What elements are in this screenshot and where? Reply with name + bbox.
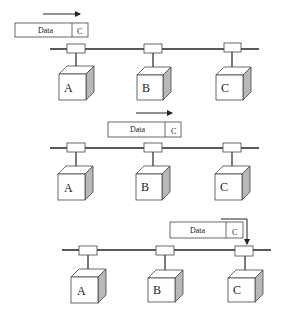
node-label: B [153, 283, 161, 297]
node-label: A [77, 284, 86, 298]
tap-connector [224, 43, 241, 52]
data-packet: Data C [15, 23, 88, 37]
packet-dest-label: C [171, 127, 176, 136]
node-a: A [59, 44, 94, 100]
tap-connector [144, 44, 162, 53]
node-c: C [216, 43, 251, 100]
tap-connector [79, 246, 97, 255]
stage-3: Data C A B C [62, 219, 271, 303]
tap-connector [235, 246, 253, 256]
node-label: B [141, 180, 149, 194]
node-label: A [64, 81, 73, 95]
data-packet: Data C [108, 122, 181, 137]
packet-data-label: Data [38, 26, 54, 35]
node-b: B [136, 143, 170, 200]
tap-connector [67, 143, 85, 152]
node-label: C [221, 81, 229, 95]
bus-network-diagram: Data C A B C [0, 0, 284, 321]
node-label: B [142, 81, 150, 95]
node-c: C [228, 246, 263, 302]
node-a: A [71, 246, 106, 303]
tap-connector [67, 44, 85, 53]
stage-2: Data C A B C [50, 113, 259, 200]
tap-connector [156, 246, 174, 255]
tap-connector [223, 143, 241, 152]
node-label: C [220, 180, 228, 194]
packet-dest-label: C [77, 27, 82, 36]
tap-connector [144, 143, 162, 152]
node-c: C [215, 143, 250, 200]
node-b: B [148, 246, 183, 302]
packet-dest-label: C [232, 228, 237, 237]
node-b: B [137, 44, 171, 100]
node-label: C [233, 283, 241, 297]
stage-1: Data C A B C [15, 14, 259, 100]
node-label: A [64, 181, 73, 195]
packet-data-label: Data [190, 226, 206, 235]
data-packet: Data C [170, 222, 243, 238]
node-a: A [58, 143, 93, 200]
packet-data-label: Data [130, 125, 146, 134]
